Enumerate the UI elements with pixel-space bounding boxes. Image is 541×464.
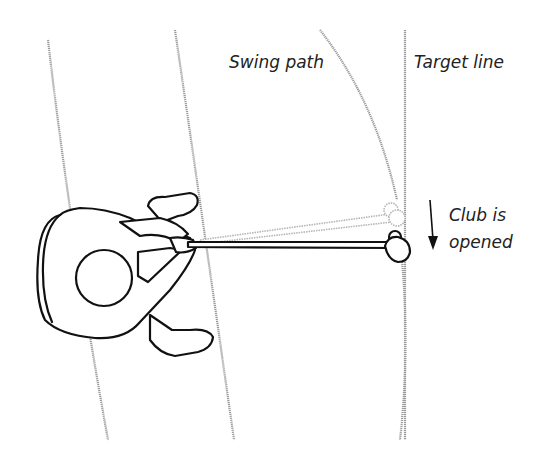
golfer-figure [37,193,213,356]
target-line-label: Target line [414,50,504,75]
club-shaft [188,242,392,248]
head [76,250,132,306]
down-arrow-icon [428,200,438,250]
club-opened-label-line2: opened [449,230,513,255]
opened-club [188,231,410,262]
swing-path-line [320,30,397,200]
swing-path-label: Swing path [229,50,324,75]
club-opened-label-line1: Club is [449,203,506,228]
ghost-club [200,203,405,244]
club-head [385,237,410,262]
lower-foot [150,315,213,356]
